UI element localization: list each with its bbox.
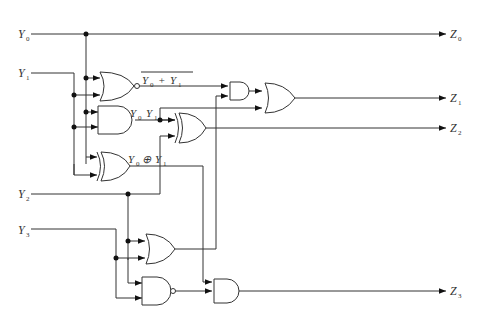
nor-gate-g1 xyxy=(100,72,140,101)
svg-text:⊕: ⊕ xyxy=(142,153,152,165)
input-label-y3: Y 3 xyxy=(18,223,30,239)
svg-text:Y: Y xyxy=(18,66,26,80)
svg-text:Y: Y xyxy=(18,187,26,201)
svg-text:0: 0 xyxy=(136,160,140,168)
svg-text:Y: Y xyxy=(155,153,163,165)
svg-text:0: 0 xyxy=(150,81,154,89)
svg-text:1: 1 xyxy=(163,160,167,168)
svg-text:0: 0 xyxy=(138,114,142,122)
wires xyxy=(31,34,446,298)
and-gate-g9 xyxy=(214,279,239,303)
nand-gate-g8 xyxy=(142,277,176,305)
and-gate-g2 xyxy=(98,106,132,134)
svg-text:1: 1 xyxy=(26,74,30,82)
svg-text:Z: Z xyxy=(450,27,457,41)
or-gate-g6 xyxy=(146,234,175,264)
svg-text:2: 2 xyxy=(26,195,30,203)
output-label-z0: Z 0 xyxy=(450,27,462,43)
svg-text:Z: Z xyxy=(450,121,457,135)
svg-text:Y: Y xyxy=(130,107,138,119)
input-label-y2: Y 2 xyxy=(18,187,30,203)
svg-text:+: + xyxy=(158,74,165,86)
svg-text:Y: Y xyxy=(142,74,150,86)
svg-text:Y: Y xyxy=(128,153,136,165)
svg-text:Z: Z xyxy=(450,91,457,105)
input-label-y1: Y 1 xyxy=(18,66,30,82)
svg-text:Y: Y xyxy=(170,74,178,86)
svg-text:1: 1 xyxy=(178,81,182,89)
or-gate-g7 xyxy=(265,83,295,113)
output-label-z2: Z 2 xyxy=(450,121,462,137)
output-label-z3: Z 3 xyxy=(450,284,462,300)
svg-text:2: 2 xyxy=(458,129,462,137)
output-label-z1: Z 1 xyxy=(450,91,462,107)
svg-text:Y: Y xyxy=(18,223,26,237)
svg-text:Y: Y xyxy=(18,27,26,41)
xor-gate-g3 xyxy=(97,152,130,181)
svg-text:Z: Z xyxy=(450,284,457,298)
svg-text:1: 1 xyxy=(458,99,462,107)
xor-gate-g4 xyxy=(175,113,206,143)
svg-text:0: 0 xyxy=(26,35,30,43)
svg-text:3: 3 xyxy=(458,292,462,300)
junction-dots xyxy=(72,32,163,261)
and-gate-g5 xyxy=(230,82,249,100)
input-label-y0: Y 0 xyxy=(18,27,30,43)
svg-text:1: 1 xyxy=(154,114,158,122)
logic-circuit-diagram: Y 0 Y 1 Y 2 Y 3 Z 0 Z 1 Z 2 Z 3 xyxy=(0,0,479,319)
svg-text:0: 0 xyxy=(458,35,462,43)
svg-text:3: 3 xyxy=(26,231,30,239)
svg-text:Y: Y xyxy=(146,107,154,119)
